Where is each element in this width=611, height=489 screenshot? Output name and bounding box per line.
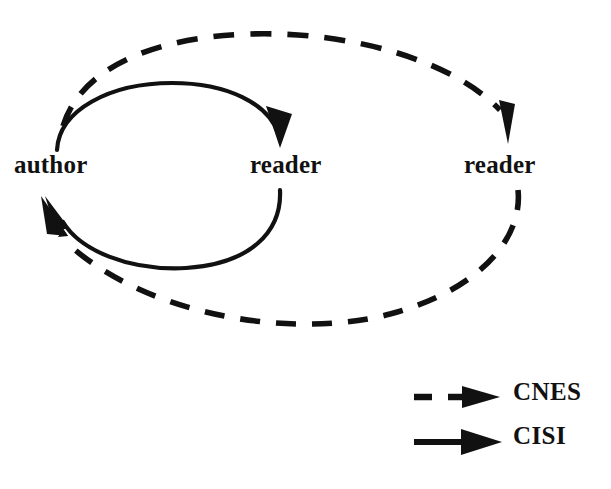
node-label-reader-1: reader	[250, 152, 322, 177]
legend-cnes-arrowhead	[462, 386, 500, 408]
legend-label-cnes: CNES	[513, 379, 581, 404]
legend-marker-cisi	[414, 429, 502, 455]
cnes-bottom-dashed-path	[75, 190, 518, 324]
cnes-arrowhead-right	[499, 100, 515, 144]
diagram-canvas: author reader reader CNES CISI	[0, 0, 611, 489]
node-label-reader-2: reader	[464, 152, 536, 177]
cisi-arrowhead-reader	[266, 106, 292, 148]
legend-cisi-arrowhead	[461, 429, 502, 455]
legend-marker-cnes	[414, 386, 500, 408]
diagram-svg	[0, 0, 611, 489]
edge-cisi-reader-to-author	[41, 190, 280, 268]
edge-cisi-author-to-reader	[57, 83, 292, 150]
cisi-bottom-solid-path	[63, 190, 280, 268]
node-label-author: author	[14, 152, 87, 177]
cisi-top-solid-path	[57, 83, 278, 150]
legend-label-cisi: CISI	[513, 423, 566, 448]
